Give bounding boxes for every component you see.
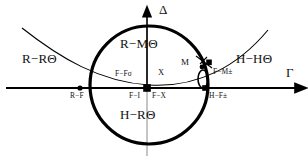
point-marker-h-f-pm	[202, 85, 208, 91]
point-label-r-f: R−F	[70, 92, 84, 100]
region-label-h-h-theta: H−HΘ	[236, 52, 272, 65]
point-label-h-f-pm: H−F±	[209, 92, 227, 100]
gamma-axis-label: Γ	[286, 66, 294, 79]
region-label-r-r-theta: R−RΘ	[22, 52, 57, 65]
figure-canvas: Γ Δ R−RΘ R−MΘ H−RΘ H−HΘ R−F F−I F−Fσ X F…	[0, 0, 308, 162]
point-label-f-f-sigma: F−Fσ	[115, 70, 132, 78]
point-marker-f-i	[143, 84, 151, 92]
delta-axis-label: Δ	[159, 3, 167, 16]
point-label-m: M	[181, 58, 189, 67]
point-marker-f-m-pm	[206, 60, 212, 66]
diagram-svg	[0, 0, 308, 162]
point-label-x: X	[158, 68, 164, 77]
point-label-f-i: F−I	[129, 92, 140, 100]
point-marker-r-f	[77, 85, 82, 90]
point-marker-m	[200, 65, 205, 70]
point-label-f-x: F−X	[152, 92, 166, 100]
point-label-f-m-pm: F−M±	[213, 68, 233, 76]
region-label-r-m-theta: R−MΘ	[120, 37, 158, 50]
region-label-h-r-theta: H−RΘ	[120, 108, 156, 121]
